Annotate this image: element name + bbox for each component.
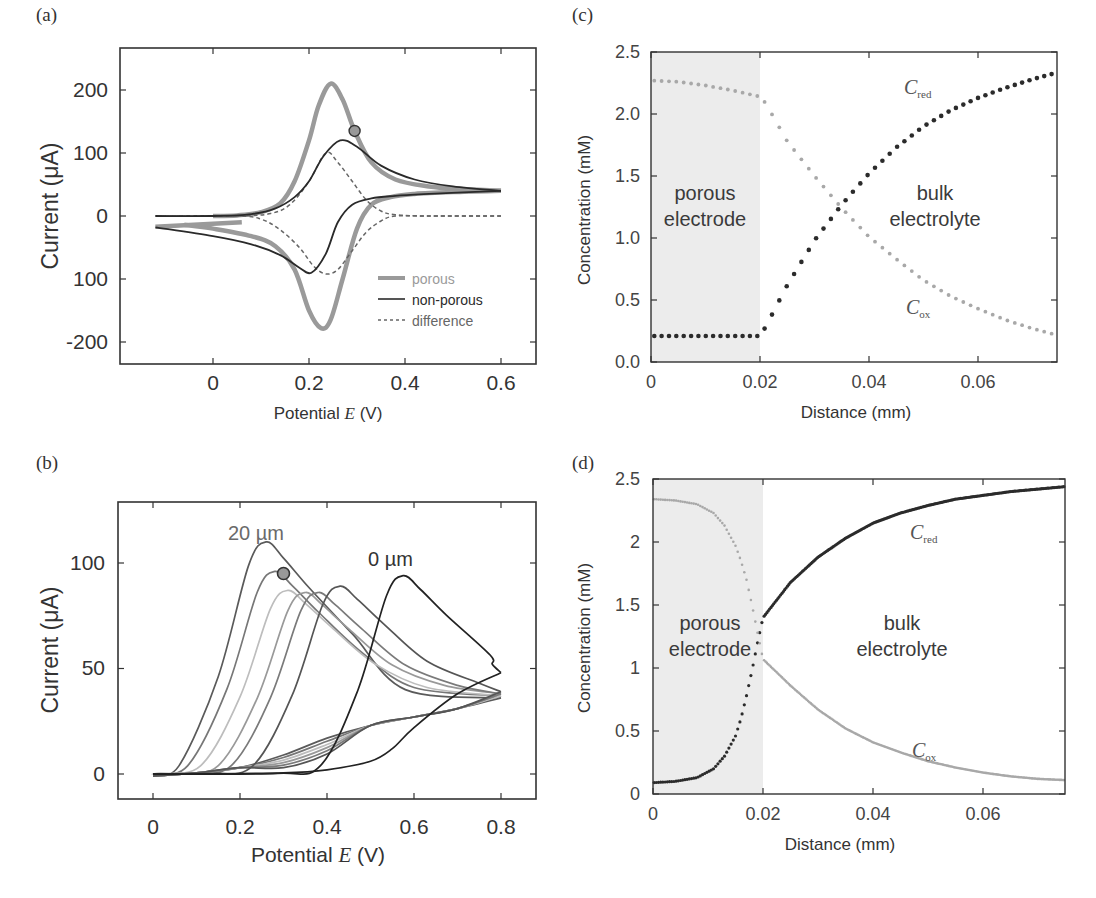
cox-point xyxy=(697,504,700,507)
cred-point xyxy=(738,720,741,723)
cred-point xyxy=(851,190,856,195)
cox-point xyxy=(917,275,921,279)
cox-point xyxy=(1020,323,1024,327)
cox-point xyxy=(873,240,877,244)
cred-point xyxy=(689,334,694,339)
xlabel-var: E xyxy=(337,843,351,867)
legend-porous: porous xyxy=(412,271,455,287)
cox-point xyxy=(682,81,686,85)
panel-a-xtick-label: 0 xyxy=(207,371,219,394)
panel-d-ytick-label: 1 xyxy=(630,658,640,678)
cred-point xyxy=(745,694,748,697)
cox-point xyxy=(770,113,774,117)
cox-point xyxy=(932,284,936,288)
cred-point xyxy=(1013,83,1018,88)
panel-d-ytick-label: 0 xyxy=(630,784,640,804)
cox-point xyxy=(675,499,678,502)
cox-point xyxy=(730,536,733,539)
cox-point xyxy=(748,92,752,96)
cox-point xyxy=(954,297,958,301)
panel-c-ytick-label: 1.5 xyxy=(615,166,640,186)
xlabel-suffix: (V) xyxy=(355,404,382,423)
cred-point xyxy=(1042,74,1047,79)
cred-point xyxy=(777,298,782,303)
panel-d-region-bulk-1: bulk xyxy=(884,612,922,634)
cv-reverse-2 xyxy=(153,696,501,776)
cox-point xyxy=(723,524,726,527)
cox-point xyxy=(684,501,687,504)
cred-point xyxy=(652,334,657,339)
cox-point xyxy=(714,514,717,517)
cred-point xyxy=(762,326,767,331)
panel-d-region-porous-2: electrode xyxy=(669,638,751,660)
cred-point xyxy=(740,334,745,339)
cox-point xyxy=(726,88,730,92)
cox-point xyxy=(836,202,840,206)
cox-point xyxy=(1013,321,1017,325)
cox-point xyxy=(947,293,951,297)
cox-point xyxy=(822,185,826,189)
marker-circle xyxy=(278,568,290,580)
cred-point xyxy=(732,739,735,742)
cred-point xyxy=(721,757,724,760)
panel-d-ytick-label: 2.5 xyxy=(615,469,640,489)
panel-c-xlabel: Distance (mm) xyxy=(801,403,912,422)
cox-point xyxy=(1050,332,1054,336)
cred-point xyxy=(792,272,797,277)
cred-point xyxy=(770,312,775,317)
cox-point xyxy=(721,522,724,525)
curve-porous-forward xyxy=(213,84,501,216)
cred-point xyxy=(873,166,878,171)
cred-main: C xyxy=(904,76,918,98)
cred-point xyxy=(704,334,709,339)
marker-circle xyxy=(349,125,360,136)
cox-point xyxy=(752,609,755,612)
cox-point xyxy=(761,653,764,656)
cred-point xyxy=(814,236,819,241)
cox-point xyxy=(708,509,711,512)
panel-c-ytick-label: 2.0 xyxy=(615,104,640,124)
cred-point xyxy=(741,712,744,715)
cox-point xyxy=(701,506,704,509)
panel-c-region-porous-2: electrode xyxy=(664,208,746,230)
xlabel-var: E xyxy=(344,404,356,423)
cv-reverse-1 xyxy=(153,696,501,776)
panel-b-ytick-label: 100 xyxy=(70,551,105,574)
panel-a-xtick-label: 0.2 xyxy=(294,371,323,394)
cox-point xyxy=(692,502,695,505)
cox-point xyxy=(704,84,708,88)
cox-point xyxy=(754,620,757,623)
panel-d-xtick-label: 0.04 xyxy=(855,804,890,824)
cred-point xyxy=(719,760,722,763)
cox-point xyxy=(829,193,833,197)
cred-point xyxy=(976,96,981,101)
cred-point xyxy=(749,674,752,677)
cox-sub: ox xyxy=(919,308,931,320)
legend-difference: difference xyxy=(412,313,473,329)
panel-a-ytick-label: 200 xyxy=(73,78,108,101)
panel-b-chart: 100 50 0 0 0.2 0.4 0.6 0.8 Current (μA) … xyxy=(37,502,536,867)
cred-point xyxy=(961,102,966,107)
cox-point xyxy=(719,519,722,522)
cox-point xyxy=(681,500,684,503)
cred-sub: red xyxy=(917,88,932,100)
cred-point xyxy=(712,767,715,770)
cred-point xyxy=(902,139,907,144)
cox-point xyxy=(728,532,731,535)
cred-point xyxy=(865,173,870,178)
panel-d-ytick-label: 1.5 xyxy=(615,595,640,615)
panel-b-curves xyxy=(152,542,501,776)
xlabel-prefix: Potential xyxy=(274,404,345,423)
curve-porous-tail xyxy=(155,222,241,226)
cox-point xyxy=(763,100,767,104)
panel-c-ytick-label: 1.0 xyxy=(615,228,640,248)
cox-point xyxy=(1035,328,1039,332)
cox-point xyxy=(689,82,693,86)
curve-non-porous-reverse xyxy=(155,191,501,274)
cox-point xyxy=(961,300,965,304)
cox-point xyxy=(800,157,804,161)
cred-point xyxy=(821,226,826,231)
panel-d-ylabel: Concentration (mM) xyxy=(575,563,594,713)
cred-point xyxy=(836,207,841,212)
panel-d-porous-shade xyxy=(653,479,763,794)
